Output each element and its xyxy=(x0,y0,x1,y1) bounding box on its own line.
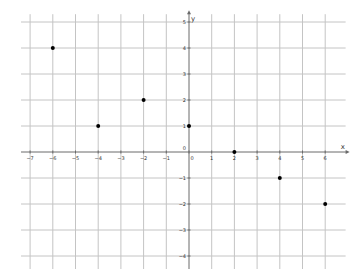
y-tick-label: −3 xyxy=(179,227,186,233)
x-tick-label: 6 xyxy=(324,155,327,161)
y-tick-label: −1 xyxy=(179,175,186,181)
x-tick-label: −1 xyxy=(163,155,170,161)
y-tick-label: 1 xyxy=(183,123,186,129)
y-tick-label: 2 xyxy=(183,97,186,103)
x-tick-label: −3 xyxy=(117,155,124,161)
y-axis-label: y xyxy=(191,15,195,23)
x-tick-label: 2 xyxy=(233,155,236,161)
y-axis-arrow-icon xyxy=(187,10,191,14)
x-axis-label: x xyxy=(341,143,345,151)
x-tick-label: −2 xyxy=(140,155,147,161)
y-tick-label: 4 xyxy=(183,45,186,51)
x-tick-label: −4 xyxy=(95,155,102,161)
data-point xyxy=(323,202,327,206)
y-tick-label: 5 xyxy=(183,19,186,25)
x-tick-label: −6 xyxy=(49,155,56,161)
tick-labels: −7−6−5−4−3−2−10123456543210−1−2−3−4xy xyxy=(26,15,344,259)
x-tick-label: 4 xyxy=(278,155,281,161)
y-tick-label: −2 xyxy=(179,201,186,207)
x-tick-label: −7 xyxy=(26,155,33,161)
coordinate-plane: −7−6−5−4−3−2−10123456543210−1−2−3−4xy xyxy=(0,0,364,279)
data-point xyxy=(96,124,100,128)
data-point xyxy=(187,124,191,128)
x-tick-label: 5 xyxy=(301,155,304,161)
x-tick-label: 1 xyxy=(210,155,213,161)
x-tick-label: 0 xyxy=(190,155,193,161)
data-point xyxy=(51,46,55,50)
y-tick-label: 0 xyxy=(183,145,186,151)
y-tick-label: 3 xyxy=(183,71,186,77)
y-tick-label: −4 xyxy=(179,253,186,259)
data-point xyxy=(142,98,146,102)
data-point xyxy=(278,176,282,180)
x-tick-label: 3 xyxy=(256,155,259,161)
x-tick-label: −5 xyxy=(72,155,79,161)
data-point xyxy=(232,150,236,154)
x-axis-arrow-icon xyxy=(346,150,350,154)
